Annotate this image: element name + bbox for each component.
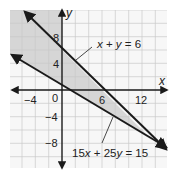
x-tick-label: 12 bbox=[135, 94, 147, 106]
graph-figure: x y −4 0 6 12 8 4 −4 −8 x + y = 6 15x + … bbox=[0, 0, 175, 177]
y-tick-label: 8 bbox=[53, 32, 59, 44]
coordinate-plane: x y −4 0 6 12 8 4 −4 −8 x + y = 6 15x + … bbox=[0, 0, 175, 177]
x-axis-label: x bbox=[158, 74, 166, 88]
y-tick-label: −4 bbox=[45, 111, 58, 123]
y-tick-label: 4 bbox=[53, 58, 59, 70]
y-axis-label: y bbox=[65, 6, 73, 20]
y-tick-label: −8 bbox=[45, 137, 58, 149]
equation-label-x-plus-y-6: x + y = 6 bbox=[96, 38, 141, 50]
x-tick-label: 6 bbox=[99, 94, 105, 106]
origin-label: 0 bbox=[52, 92, 58, 104]
x-tick-label: −4 bbox=[24, 94, 37, 106]
equation-label-15x-25y-15: 15x + 25y = 15 bbox=[72, 147, 148, 159]
